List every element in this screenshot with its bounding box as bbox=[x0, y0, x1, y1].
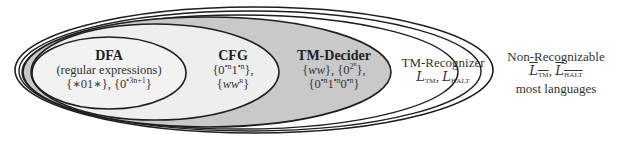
dfa-label: DFA (regular expressions) {∗01∗}, {0•3n+… bbox=[42, 49, 176, 91]
tm-decider-example-1: {ww}, {02n}, bbox=[282, 63, 386, 77]
non-recognizable-label: Non-Recognizable LTM, LHALT most languag… bbox=[500, 50, 612, 96]
cfg-example-2: {wwR} bbox=[193, 77, 273, 91]
cfg-label: CFG {0•n1•n}, {wwR} bbox=[193, 49, 273, 91]
non-recognizable-examples: LTM, LHALT bbox=[500, 64, 612, 82]
dfa-title: DFA bbox=[42, 49, 176, 63]
dfa-examples: {∗01∗}, {0•3n+1} bbox=[42, 77, 176, 91]
tm-recognizer-title: TM-Recognizer bbox=[394, 56, 492, 70]
tm-decider-label: TM-Decider {ww}, {02n}, {0•n1•n0•n} bbox=[282, 49, 386, 91]
cfg-example-1: {0•n1•n}, bbox=[193, 63, 273, 77]
dfa-subtitle: (regular expressions) bbox=[42, 63, 176, 77]
tm-recognizer-examples: LTM, LHALT bbox=[394, 70, 492, 88]
tm-recognizer-label: TM-Recognizer LTM, LHALT bbox=[394, 56, 492, 88]
non-recognizable-note: most languages bbox=[500, 82, 612, 96]
tm-decider-title: TM-Decider bbox=[282, 49, 386, 63]
non-recognizable-title: Non-Recognizable bbox=[500, 50, 612, 64]
cfg-title: CFG bbox=[193, 49, 273, 63]
tm-decider-example-2: {0•n1•n0•n} bbox=[282, 77, 386, 91]
